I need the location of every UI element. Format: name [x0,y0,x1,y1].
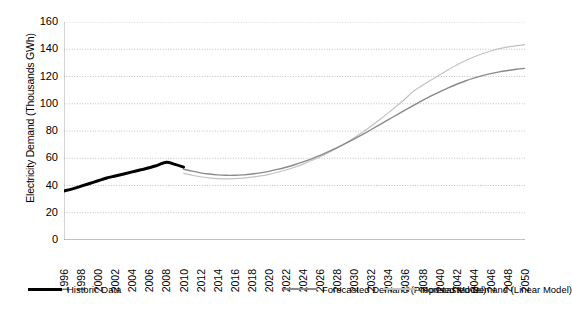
y-tick-label: 80 [26,125,58,136]
y-tick-label: 140 [26,43,58,54]
y-tick-label: 120 [26,71,58,82]
y-tick-label: 160 [26,16,58,27]
legend-item[interactable]: Forecasted Demand (Linear Model) [383,281,572,297]
series-line [184,45,525,179]
y-tick-label: 100 [26,98,58,109]
legend-label: Forecasted Demand (Linear Model) [422,284,572,295]
y-axis-tick-labels: 160140120100806040200 [22,0,58,313]
legend-swatch-icon [283,288,317,289]
legend-label: Historic Data [67,284,121,295]
y-tick-label: 60 [26,152,58,163]
y-tick-label: 40 [26,180,58,191]
chart-legend: Historic DataForecasted Demand (Proposed… [28,281,538,299]
legend-swatch-icon [28,288,62,291]
plot-svg [64,22,525,240]
y-tick-label: 0 [26,234,58,245]
series-line [184,68,525,175]
plot-area [64,22,525,240]
y-tick-label: 20 [26,207,58,218]
legend-item[interactable]: Historic Data [28,281,121,297]
legend-swatch-icon [383,288,417,289]
series-line [64,162,184,191]
